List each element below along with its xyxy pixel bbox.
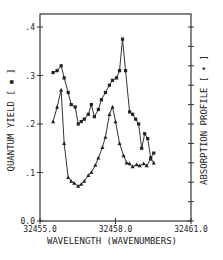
triangle-marker	[66, 175, 70, 179]
y-tick-label: .3	[25, 72, 35, 81]
square-marker	[104, 91, 107, 94]
y-axis-label: QUANTUM YIELD [ ▪ ]	[6, 69, 16, 172]
triangle-marker	[62, 141, 66, 145]
square-marker	[111, 79, 114, 82]
x-tick-label: 32461.0	[174, 225, 208, 234]
triangle-marker	[72, 181, 76, 185]
square-marker	[143, 132, 146, 135]
square-marker	[87, 113, 90, 116]
square-marker	[121, 38, 124, 41]
y-tick-label: .1	[25, 169, 35, 178]
triangle-marker	[76, 184, 80, 188]
square-marker	[131, 113, 134, 116]
x-tick-label: 32455.0	[23, 225, 57, 234]
triangle-marker	[142, 162, 146, 166]
right-axis-label: ABSORPTION PROFILE [ • ]	[199, 55, 209, 185]
square-marker	[70, 103, 73, 106]
triangle-marker	[59, 88, 63, 92]
square-marker	[100, 98, 103, 101]
chart: 0.0.1.2.3.4 32455.032458.032461.0 QUANTU…	[0, 0, 223, 260]
x-axis-ticks: 32455.032458.032461.0	[23, 218, 208, 234]
square-marker	[74, 105, 77, 108]
square-marker	[115, 76, 118, 79]
triangle-marker	[51, 119, 55, 123]
square-marker	[93, 115, 96, 118]
square-marker	[90, 103, 93, 106]
triangle-marker	[103, 135, 107, 139]
square-marker	[108, 84, 111, 87]
triangle-marker	[96, 156, 100, 160]
square-marker	[60, 64, 63, 67]
square-marker	[51, 71, 54, 74]
triangle-marker	[122, 153, 126, 157]
triangle-marker	[125, 161, 129, 165]
square-marker	[77, 122, 80, 125]
square-marker	[124, 69, 127, 72]
triangle-marker	[93, 163, 97, 167]
triangle-marker	[118, 141, 122, 145]
square-marker	[137, 122, 140, 125]
y-tick-label: .2	[25, 120, 35, 129]
square-marker	[80, 120, 83, 123]
square-marker	[152, 152, 155, 155]
triangle-marker	[110, 105, 114, 109]
square-marker	[128, 110, 131, 113]
square-marker	[67, 91, 70, 94]
triangle-marker	[55, 105, 59, 109]
triangle-marker	[135, 163, 139, 167]
triangle-marker	[114, 119, 118, 123]
square-marker	[146, 137, 149, 140]
y-tick-label: .4	[25, 23, 35, 32]
triangle-marker	[100, 145, 104, 149]
square-marker	[140, 147, 143, 150]
square-marker	[56, 69, 59, 72]
x-axis-label: WAVELENGTH (WAVENUMBERS)	[47, 236, 177, 246]
triangle-marker	[107, 112, 111, 116]
square-marker	[63, 76, 66, 79]
x-tick-label: 32458.0	[99, 225, 133, 234]
square-marker	[83, 118, 86, 121]
square-marker	[118, 69, 121, 72]
square-marker	[134, 118, 137, 121]
data-series	[51, 38, 156, 188]
square-marker	[97, 108, 100, 111]
